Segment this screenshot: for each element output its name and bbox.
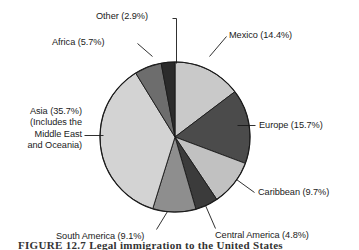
leader-line-south-america	[157, 212, 168, 230]
pie-label-asia-line-2: (Includes the	[4, 117, 82, 128]
pie-label-central-america-text: Central America (4.8%)	[215, 230, 309, 240]
pie-label-asia-line-4: and Oceania)	[4, 140, 82, 151]
pie-label-asia-line-1: Asia (35.7%)	[4, 106, 82, 117]
figure-caption: FIGURE 12.7 Legal immigration to the Uni…	[18, 241, 283, 250]
pie-label-other: Other (2.9%)	[96, 11, 148, 22]
figure-caption-strip: FIGURE 12.7 Legal immigration to the Uni…	[0, 241, 359, 250]
pie-label-europe: Europe (15.7%)	[259, 120, 323, 131]
pie-label-south-america-text: South America (9.1%)	[56, 231, 144, 241]
pie-label-caribbean: Caribbean (9.7%)	[258, 187, 329, 198]
pie-chart-figure: Other (2.9%) Africa (5.7%) Asia (35.7%) …	[0, 0, 359, 250]
pie-label-mexico-text: Mexico (14.4%)	[229, 30, 292, 40]
leader-line-central-america	[206, 206, 216, 229]
pie-label-mexico: Mexico (14.4%)	[229, 30, 292, 41]
pie-slice-group	[100, 62, 250, 212]
pie-label-asia-line-3: Middle East	[4, 129, 82, 140]
pie-label-other-text: Other (2.9%)	[96, 11, 148, 21]
leader-line-mexico	[210, 37, 227, 57]
leader-line-caribbean	[237, 180, 255, 193]
pie-label-europe-text: Europe (15.7%)	[259, 120, 323, 130]
pie-label-africa: Africa (5.7%)	[52, 37, 104, 48]
pie-label-africa-text: Africa (5.7%)	[52, 37, 104, 47]
leader-line-africa	[138, 44, 153, 57]
pie-label-central-america: Central America (4.8%)	[215, 230, 309, 241]
leader-line-other	[173, 19, 177, 64]
pie-label-asia: Asia (35.7%) (Includes the Middle East a…	[4, 106, 82, 152]
pie-label-caribbean-text: Caribbean (9.7%)	[258, 187, 329, 197]
